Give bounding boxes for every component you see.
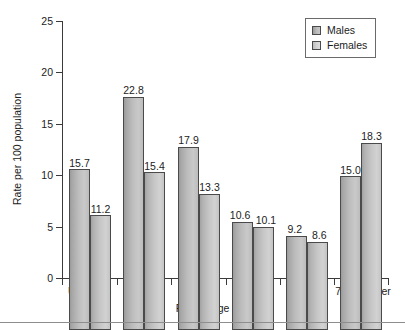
x-axis-tick-3 [226, 279, 227, 285]
bar-group-45-64: 10.6 10.1 [232, 74, 274, 330]
x-axis-tick-4 [280, 279, 281, 285]
legend-label-females: Females [327, 40, 367, 51]
bar-group-15-24: 22.8 15.4 [123, 74, 165, 330]
bar-value-males-75-and-over: 15.0 [340, 165, 360, 176]
x-axis-tick-2 [171, 279, 172, 285]
bar-females-45-64: 10.1 [253, 227, 274, 330]
bar-value-males-45-64: 10.6 [230, 210, 250, 221]
bar-males-65-74: 9.2 [286, 236, 307, 330]
bar-females-under-15: 11.2 [90, 215, 111, 330]
bar-males-25-44: 17.9 [178, 147, 199, 330]
x-axis-tick-0 [62, 279, 63, 285]
bar-value-males-under-15: 15.7 [69, 158, 89, 169]
y-axis-title: Rate per 100 population [11, 49, 23, 249]
bar-value-females-45-64: 10.1 [256, 215, 276, 226]
bar-value-females-25-44: 13.3 [199, 182, 219, 193]
bar-value-females-under-15: 11.2 [91, 204, 111, 215]
bar-value-females-15-24: 15.4 [144, 161, 164, 172]
y-axis-tick-5 [56, 227, 63, 228]
bar-females-25-44: 13.3 [199, 194, 220, 330]
bar-chart-figure: 25 20 15 10 5 0 Rate per 100 population … [0, 0, 405, 330]
bar-males-under-15: 15.7 [69, 169, 90, 330]
bar-males-45-64: 10.6 [232, 222, 253, 330]
bar-males-15-24: 22.8 [123, 97, 144, 330]
bar-value-males-65-74: 9.2 [287, 224, 302, 235]
y-axis-tick-25 [56, 21, 63, 22]
legend-entry-males: Males [312, 23, 367, 38]
bar-value-females-65-74: 8.6 [312, 230, 327, 241]
y-axis-label-25: 25 [13, 16, 53, 27]
bar-males-75-and-over: 15.0 [340, 176, 361, 330]
bar-group-75-and-over: 15.0 18.3 [340, 74, 382, 330]
bar-value-males-25-44: 17.9 [178, 135, 198, 146]
bar-females-75-and-over: 18.3 [361, 143, 382, 330]
legend-swatch-females-icon [312, 41, 321, 50]
legend: Males Females [305, 18, 376, 58]
bar-group-25-44: 17.9 13.3 [178, 74, 220, 330]
bar-females-65-74: 8.6 [307, 242, 328, 330]
bar-females-15-24: 15.4 [144, 172, 165, 330]
bar-group-65-74: 9.2 8.6 [286, 74, 328, 330]
y-axis-tick-15 [56, 124, 63, 125]
y-axis-tick-10 [56, 175, 63, 176]
y-axis-line [62, 21, 63, 279]
bar-value-females-75-and-over: 18.3 [361, 131, 381, 142]
y-axis-label-0: 0 [13, 273, 53, 284]
x-axis-tick-1 [117, 279, 118, 285]
y-axis-tick-20 [56, 72, 63, 73]
bar-value-males-15-24: 22.8 [123, 85, 143, 96]
page-separator-rule [0, 322, 405, 323]
legend-swatch-males-icon [312, 26, 321, 35]
legend-label-males: Males [327, 25, 355, 36]
legend-entry-females: Females [312, 38, 367, 53]
bar-group-under-15: 15.7 11.2 [69, 74, 111, 330]
